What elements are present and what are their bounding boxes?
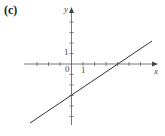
data-line [30,41,152,123]
y-axis-label: y [64,4,68,14]
x-tick-label: 1 [81,65,86,75]
y-axis-arrow-icon [69,7,74,13]
y-tick-label: 1 [64,47,69,57]
origin-label: 0 [65,64,70,74]
x-axis-label: x [154,66,158,76]
